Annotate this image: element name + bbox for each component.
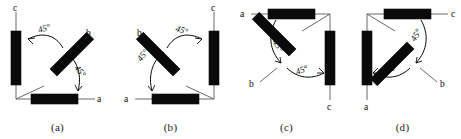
coil-a-bar [152, 94, 199, 104]
panel-caption-d: (d) [345, 121, 460, 133]
coil-c-bar [11, 31, 21, 85]
coil-b-bar [370, 42, 414, 86]
terminal-label-c: c [327, 102, 331, 112]
panel-b-svg: c b a 45° 45° [113, 0, 228, 118]
panel-caption-c: (c) [229, 121, 344, 133]
lead-b-lower [420, 68, 437, 82]
terminal-label-a: a [97, 94, 102, 104]
angle-label-2: 45° [72, 63, 88, 79]
terminal-label-b: b [137, 28, 142, 38]
terminal-label-a: a [124, 94, 129, 104]
angle-arrow-1 [28, 38, 35, 44]
angle-label-1: 45° [408, 27, 423, 43]
panel-d-svg: c b a 45° 45° [345, 0, 460, 118]
diagram-panel-d: c b a 45° 45° (d) [345, 0, 460, 139]
coil-c-bar [209, 31, 219, 85]
panel-c-svg: a b c 45° 45° [229, 0, 344, 118]
diagram-panel-a: c b a 45° 45° (a) [0, 0, 115, 139]
angle-arrow-1 [195, 38, 202, 44]
coil-c-bar [384, 9, 431, 19]
angle-label-2: 45° [294, 63, 310, 77]
terminal-label-b: b [249, 79, 254, 89]
terminal-label-a: a [240, 9, 245, 19]
figure-root: c b a 45° 45° (a) [0, 0, 461, 139]
coil-a-bar [362, 31, 372, 85]
diagram-panel-c: a b c 45° 45° (c) [229, 0, 344, 139]
angle-label-1: 45° [37, 22, 52, 35]
terminal-label-a: a [364, 102, 369, 112]
terminal-label-c: c [211, 3, 215, 13]
angle-arc-1 [167, 35, 202, 48]
coil-b-bar [50, 32, 94, 76]
terminal-label-c: c [13, 3, 17, 13]
diagram-panel-b: c b a 45° 45° (b) [113, 0, 228, 139]
coil-c-bar [325, 31, 335, 85]
terminal-label-c: c [451, 9, 455, 19]
panel-caption-a: (a) [0, 121, 115, 133]
terminal-label-b: b [86, 28, 91, 38]
coil-a-bar [31, 94, 78, 104]
terminal-label-b: b [440, 79, 445, 89]
panel-caption-b: (b) [113, 121, 228, 133]
angle-arc-1 [28, 35, 63, 48]
angle-arrow-2 [317, 68, 324, 73]
lead-b-lower [260, 68, 277, 82]
coil-a-bar [268, 9, 315, 19]
panel-a-svg: c b a 45° 45° [0, 0, 115, 118]
